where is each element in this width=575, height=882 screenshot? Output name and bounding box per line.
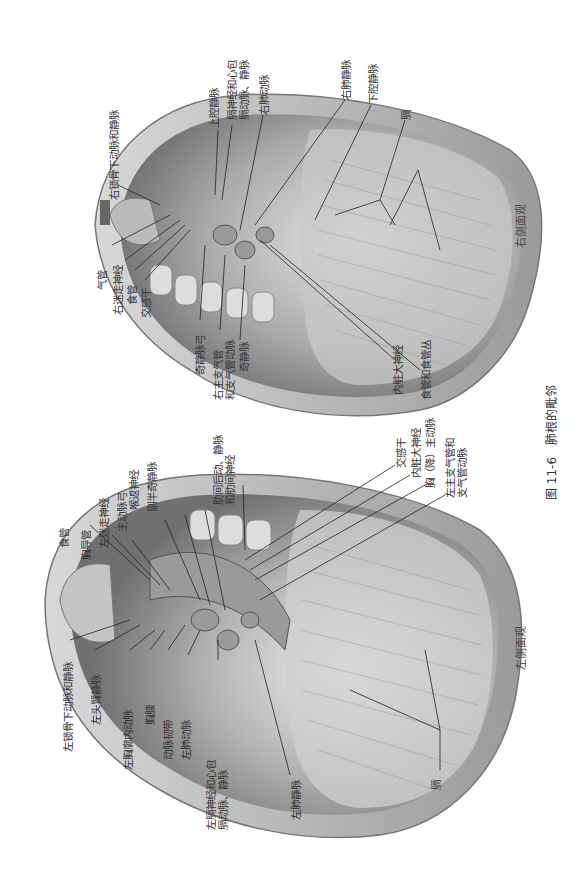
label-right-esophagus: 食管 <box>126 285 138 305</box>
label-thoracic-duct: 胸导管 <box>80 530 92 560</box>
figure-page: 右锁骨下动脉和静脉 上腔静脉 膈神经和心包 膈动脉、静脉 右肺动脉 右肺静脉 下… <box>0 0 575 882</box>
label-left-brachiocephalic: 左头臂静脉 <box>90 675 102 725</box>
label-right-diaphragm: 膈 <box>400 110 412 120</box>
label-right-splanchnic: 内脏大神经 <box>392 345 404 395</box>
label-left-pulmonary-vein: 左肺静脉 <box>290 780 302 820</box>
label-left-vagus: 左迷走神经 <box>98 498 110 548</box>
label-left-esophagus: 食管 <box>58 528 70 548</box>
label-intercostal: 肋间后动、静脉 和肋间神经 <box>212 435 236 505</box>
label-esophageal-plexus: 食管和食管丛 <box>420 340 432 400</box>
label-left-phrenic: 左膈神经和心包 膈动脉、静脉 <box>205 760 229 830</box>
label-left-bronchus: 左主支气管和 支气管动脉 <box>444 438 468 498</box>
caption-right-view: 右侧面观 <box>512 204 528 248</box>
caption-left-view: 左侧面观 <box>512 626 528 670</box>
figure-caption: 图 11-6 肺根的毗邻 <box>542 385 559 500</box>
label-azygos-arch: 奇静脉弓 <box>194 335 206 375</box>
right-view-illustration <box>95 94 542 415</box>
label-right-phrenic: 膈神经和心包 膈动脉、静脉 <box>226 60 250 120</box>
label-left-splanchnic: 内脏大神经 <box>410 428 422 478</box>
label-right-pulmonary-artery: 右肺动脉 <box>258 75 270 115</box>
label-descending-aorta: 胸（降）主动脉 <box>424 418 436 488</box>
label-ivc: 下腔静脉 <box>367 64 379 104</box>
label-right-vagus: 右迷走神经 <box>112 265 124 315</box>
label-right-subclavian: 右锁骨下动脉和静脉 <box>108 110 120 200</box>
label-recurrent-laryngeal: 喉返神经 <box>128 470 140 510</box>
label-ligamentum-arteriosum: 动脉韧带 <box>162 720 174 760</box>
label-trachea: 气管 <box>96 270 108 290</box>
figure-title: 肺根的毗邻 <box>545 385 559 445</box>
label-left-subclavian: 左锁骨下动脉和静脉 <box>62 662 74 752</box>
label-right-pulmonary-vein: 右肺静脉 <box>340 60 352 100</box>
label-internal-thoracic: 左胸廓内动脉 <box>122 710 134 770</box>
label-right-bronchus: 右主支气管 和支气管动脉 <box>212 340 236 400</box>
anatomy-illustration <box>0 0 575 882</box>
label-left-diaphragm: 膈 <box>430 780 442 790</box>
figure-number: 图 11-6 <box>545 457 559 500</box>
label-right-sympathetic: 交感干 <box>140 288 152 318</box>
label-svc: 上腔静脉 <box>208 88 220 128</box>
label-left-pulmonary-artery: 左肺动脉 <box>180 720 192 760</box>
label-aortic-arch: 主动脉弓 <box>116 492 128 532</box>
label-accessory-hemiazygos: 副半奇静脉 <box>146 462 158 512</box>
label-thymus: 胸腺 <box>144 705 156 725</box>
label-left-sympathetic: 交感干 <box>395 438 407 468</box>
label-azygos: 奇静脉 <box>238 342 250 372</box>
